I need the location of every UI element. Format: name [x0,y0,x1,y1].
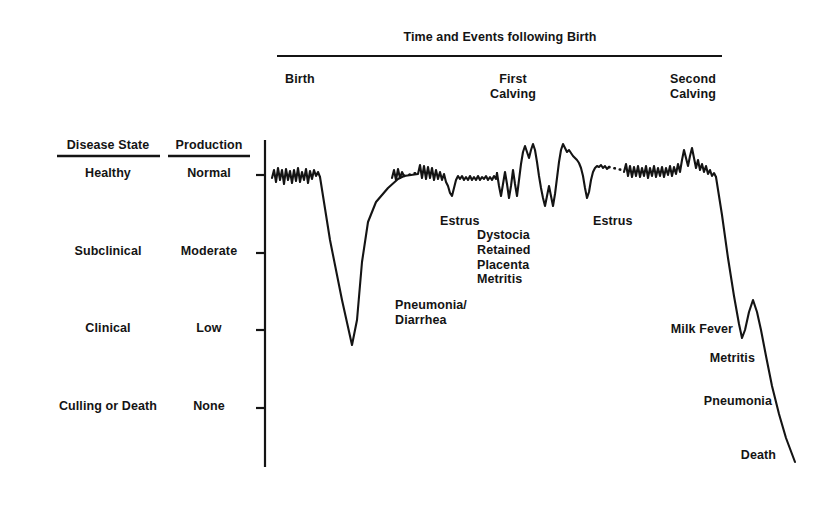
rule-lines [57,56,722,156]
chart-title: Time and Events following Birth [403,30,596,45]
annotation-3: Estrus [593,214,633,229]
event-label-0: Birth [285,72,315,87]
curve-segment-calf-period-wiggle [272,168,320,184]
production-label-2: Low [196,321,221,336]
annotation-6: Pneumonia [704,394,772,409]
disease-state-header: Disease State [67,138,150,153]
curve-segment-pneumonia-diarrhea-crash [320,176,404,345]
production-series [272,144,795,462]
disease-state-label-3: Culling or Death [59,399,157,414]
disease-state-label-0: Healthy [85,166,131,181]
curve-segment-first-lactation-disease-cluster [497,144,609,206]
disease-state-label-1: Subclinical [74,244,141,259]
production-header: Production [176,138,243,153]
event-label-2: Second Calving [670,72,716,102]
event-label-1: First Calving [490,72,536,102]
curve-segment-heifer-baseline [392,165,497,196]
annotation-7: Death [741,448,776,463]
production-label-0: Normal [187,166,231,181]
annotation-5: Metritis [710,351,755,366]
disease-state-label-2: Clinical [85,321,130,336]
y-axis [256,140,265,467]
annotation-2: Dystocia Retained Placenta Metritis [477,228,531,287]
curve-segment-terminal-decline [716,177,795,462]
annotation-0: Pneumonia/ Diarrhea [395,298,467,328]
curve-segment-dotted-gap-2 [609,167,622,170]
figure-root: Time and Events following Birth Disease … [0,0,838,505]
annotation-4: Milk Fever [671,322,733,337]
annotation-1: Estrus [440,214,480,229]
production-label-3: None [193,399,225,414]
curve-segment-dry-period-baseline [624,148,716,178]
production-label-1: Moderate [181,244,237,259]
y-axis-ticks [256,175,265,408]
